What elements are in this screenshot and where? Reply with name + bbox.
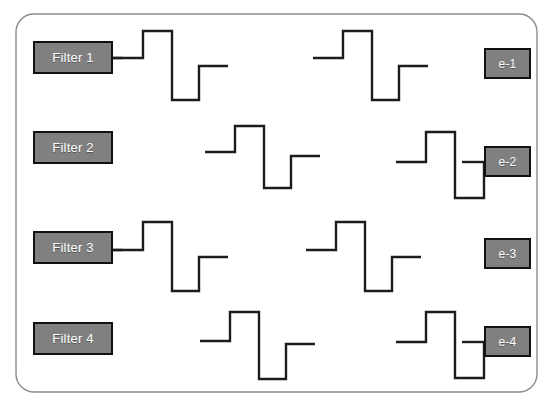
waveform-row1-right bbox=[313, 31, 428, 100]
output-box-e-1[interactable]: e-1 bbox=[484, 48, 531, 79]
filter-box-1-label: Filter 1 bbox=[52, 51, 93, 64]
waveform-row2-left bbox=[205, 126, 320, 188]
waveform-layer bbox=[113, 31, 484, 379]
output-box-e-3[interactable]: e-3 bbox=[484, 238, 531, 269]
filter-box-2-label: Filter 2 bbox=[52, 141, 93, 154]
filter-box-2[interactable]: Filter 2 bbox=[33, 131, 113, 164]
connector-layer bbox=[113, 58, 484, 342]
filter-box-3-label: Filter 3 bbox=[52, 241, 93, 254]
filter-box-1[interactable]: Filter 1 bbox=[33, 41, 113, 74]
output-box-e-1-label: e-1 bbox=[499, 58, 517, 70]
output-box-e-2[interactable]: e-2 bbox=[484, 146, 531, 177]
output-box-e-4[interactable]: e-4 bbox=[484, 326, 531, 357]
output-box-e-2-label: e-2 bbox=[499, 156, 517, 168]
waveform-row3-left bbox=[113, 222, 228, 291]
signal-flow-diagram: Filter 1 Filter 2 Filter 3 Filter 4 e-1 … bbox=[0, 0, 552, 409]
filter-box-4-label: Filter 4 bbox=[52, 332, 93, 345]
output-box-e-3-label: e-3 bbox=[499, 248, 517, 260]
waveform-row2-right bbox=[396, 132, 484, 198]
waveform-row1-left bbox=[113, 31, 228, 100]
waveform-row4-left bbox=[200, 312, 315, 379]
waveform-row4-right bbox=[396, 312, 484, 378]
waveform-row3-right bbox=[306, 222, 421, 291]
output-box-e-4-label: e-4 bbox=[499, 336, 517, 348]
filter-box-3[interactable]: Filter 3 bbox=[33, 231, 113, 264]
filter-box-4[interactable]: Filter 4 bbox=[33, 322, 113, 355]
